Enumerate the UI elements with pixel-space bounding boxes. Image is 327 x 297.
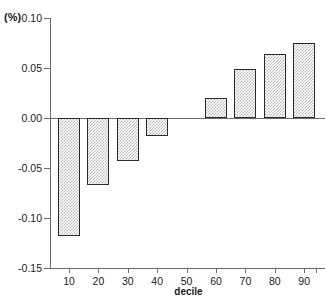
x-axis-tick xyxy=(128,268,129,273)
y-axis-line xyxy=(50,18,51,269)
y-axis-tick xyxy=(44,168,50,169)
y-axis-tick-label: 0.00 xyxy=(0,113,42,124)
y-axis-tick xyxy=(44,18,50,19)
bar xyxy=(234,69,256,118)
y-axis-tick-label: 0.10 xyxy=(0,13,42,24)
bar xyxy=(205,98,227,118)
x-axis-tick xyxy=(98,268,99,273)
x-axis-tick-label: 40 xyxy=(142,276,172,287)
x-axis-tick xyxy=(245,268,246,273)
x-axis-tick xyxy=(304,268,305,273)
x-axis-tick-label: 70 xyxy=(230,276,260,287)
y-axis-tick-label: -0.05 xyxy=(0,163,42,174)
x-axis-title: decile xyxy=(0,287,327,297)
x-axis-tick-label: 80 xyxy=(260,276,290,287)
x-axis-tick-label: 20 xyxy=(83,276,113,287)
x-axis-tick xyxy=(275,268,276,273)
x-axis-tick xyxy=(69,268,70,273)
bar xyxy=(146,118,168,136)
bar xyxy=(293,43,315,118)
x-axis-tick-end xyxy=(316,268,317,273)
x-axis-tick-label: 60 xyxy=(201,276,231,287)
x-axis-tick xyxy=(216,268,217,273)
y-axis-tick-label: -0.10 xyxy=(0,213,42,224)
bar xyxy=(58,118,80,236)
y-axis-tick-label: 0.05 xyxy=(0,63,42,74)
x-axis-tick-label: 90 xyxy=(289,276,319,287)
x-axis-tick-label: 30 xyxy=(113,276,143,287)
y-axis-tick xyxy=(44,268,50,269)
bar-chart: (%) 0.100.050.00-0.05-0.10-0.15 10203040… xyxy=(0,0,327,297)
bar xyxy=(117,118,139,161)
x-axis-tick xyxy=(157,268,158,273)
y-axis-tick xyxy=(44,218,50,219)
y-axis-tick-label: -0.15 xyxy=(0,263,42,274)
y-axis-tick xyxy=(44,118,50,119)
x-axis-tick-label: 10 xyxy=(54,276,84,287)
y-axis-tick xyxy=(44,68,50,69)
plot-area: 0.100.050.00-0.05-0.10-0.15 102030405060… xyxy=(0,0,327,297)
bar xyxy=(87,118,109,185)
x-axis-tick xyxy=(187,268,188,273)
bar xyxy=(264,54,286,118)
